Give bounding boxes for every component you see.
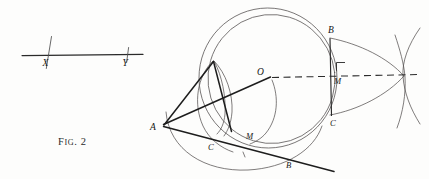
horizontal-baseline	[22, 54, 143, 55]
label-point-m-lower: M	[245, 131, 254, 141]
label-point-y: Y	[123, 58, 130, 68]
arc-o-to-m	[250, 80, 276, 144]
segment-a-to-lens-apex	[164, 62, 214, 126]
arc-tick-lower	[243, 152, 245, 157]
label-center-o: O	[257, 67, 264, 77]
right-angle-marker	[337, 63, 346, 71]
left-panel-group: X Y	[22, 37, 143, 69]
label-point-c-lower-right: C	[330, 118, 336, 128]
inner-circle	[202, 8, 342, 150]
label-point-m-right: M	[333, 76, 342, 86]
far-right-arc-a	[403, 28, 420, 124]
figure-drawing-canvas: X Y	[0, 0, 429, 179]
label-point-a: A	[149, 122, 156, 132]
figure-caption-number: . 2	[74, 136, 86, 147]
right-arc-upper	[330, 38, 404, 76]
label-point-c-lower-left: C	[208, 142, 214, 152]
label-point-x: X	[42, 58, 50, 68]
figure-caption: FIG. 2	[58, 136, 87, 147]
label-point-b-upper-right: B	[328, 25, 334, 35]
figure-caption-ig: IG	[64, 138, 74, 147]
right-panel-group: O A B M C C M B	[149, 1, 420, 171]
label-point-b-lower: B	[286, 160, 292, 170]
axis-dashed-line	[272, 75, 419, 78]
segment-a-to-o	[164, 77, 271, 125]
figure-2-container: X Y	[0, 0, 429, 179]
